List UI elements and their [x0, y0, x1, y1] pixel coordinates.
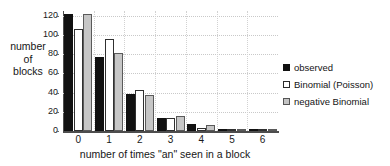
x-axis-title: number of times "an" seen in a block — [40, 148, 290, 160]
x-tick-label-5: 5 — [222, 134, 242, 146]
bar-group-4 — [187, 11, 215, 131]
x-tick-label-2: 2 — [130, 134, 150, 146]
y-tick-label-40: 40 — [36, 88, 58, 97]
bar-negbinomial-3 — [176, 116, 185, 131]
y-tick-label-100: 100 — [36, 30, 58, 39]
bar-observed-2 — [126, 94, 135, 131]
legend-label-observed: observed — [294, 62, 333, 73]
bar-group-3 — [157, 11, 185, 131]
x-axis-tick-labels: 0123456 — [63, 134, 279, 148]
legend-item-negbinomial: negative Binomial — [283, 94, 389, 109]
y-tick-mark — [56, 54, 59, 55]
legend-swatch-negbinomial-icon — [283, 98, 290, 105]
bar-group-0 — [64, 11, 92, 131]
bar-observed-0 — [64, 14, 73, 131]
bar-observed-5 — [218, 129, 227, 131]
x-tick-label-4: 4 — [191, 134, 211, 146]
bar-negbinomial-2 — [145, 95, 154, 131]
bar-negbinomial-5 — [237, 129, 246, 131]
bar-chart-figure: number of blocks 020406080100120 0123456… — [0, 0, 390, 166]
y-tick-label-20: 20 — [36, 107, 58, 116]
y-tick-mark — [56, 131, 59, 132]
bar-binomial-6 — [258, 129, 267, 131]
legend-label-binomial: Binomial (Poisson) — [294, 79, 373, 90]
bar-observed-1 — [95, 57, 104, 131]
bar-binomial-1 — [105, 39, 114, 131]
y-tick-mark — [56, 93, 59, 94]
x-tick-label-1: 1 — [99, 134, 119, 146]
bar-binomial-3 — [166, 118, 175, 131]
legend-swatch-observed-icon — [283, 64, 290, 71]
bar-negbinomial-6 — [268, 129, 277, 131]
y-tick-mark — [56, 35, 59, 36]
x-tick-label-6: 6 — [253, 134, 273, 146]
x-axis-line — [63, 131, 279, 133]
bar-group-5 — [218, 11, 246, 131]
bar-group-1 — [95, 11, 123, 131]
y-tick-label-120: 120 — [36, 11, 58, 20]
bar-observed-4 — [187, 124, 196, 131]
bar-binomial-2 — [135, 90, 144, 131]
bar-negbinomial-1 — [114, 53, 123, 131]
y-axis-tick-labels: 020406080100120 — [34, 0, 58, 166]
chart-legend: observedBinomial (Poisson)negative Binom… — [283, 60, 389, 111]
y-tick-mark — [56, 112, 59, 113]
x-tick-label-3: 3 — [161, 134, 181, 146]
legend-item-observed: observed — [283, 60, 389, 75]
legend-label-negbinomial: negative Binomial — [294, 96, 369, 107]
y-tick-mark — [56, 16, 59, 17]
y-tick-mark — [56, 73, 59, 74]
bar-binomial-0 — [74, 29, 83, 131]
bar-binomial-4 — [197, 128, 206, 131]
y-tick-label-80: 80 — [36, 49, 58, 58]
bar-negbinomial-0 — [83, 14, 92, 131]
bar-observed-6 — [249, 129, 258, 131]
legend-swatch-binomial-icon — [283, 81, 290, 88]
bar-group-2 — [126, 11, 154, 131]
bar-negbinomial-4 — [206, 125, 215, 131]
y-tick-label-0: 0 — [36, 126, 58, 135]
plot-area — [63, 11, 278, 131]
bar-observed-3 — [157, 118, 166, 131]
y-tick-label-60: 60 — [36, 68, 58, 77]
bar-binomial-5 — [227, 129, 236, 131]
legend-item-binomial: Binomial (Poisson) — [283, 77, 389, 92]
bar-group-6 — [249, 11, 277, 131]
x-tick-label-0: 0 — [68, 134, 88, 146]
